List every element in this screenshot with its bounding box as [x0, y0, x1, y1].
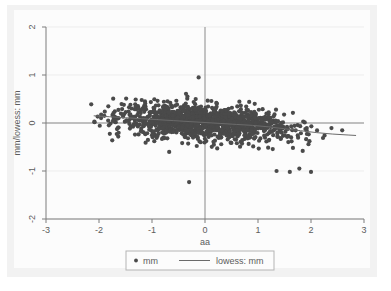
scatter-point: [207, 114, 211, 118]
scatter-point-outlier: [297, 167, 301, 171]
scatter-point: [212, 143, 216, 147]
scatter-point: [89, 102, 93, 106]
scatter-point: [106, 104, 110, 108]
x-tick-label: -3: [42, 225, 50, 235]
scatter-point: [247, 142, 251, 146]
scatter-point: [125, 119, 129, 123]
scatter-point: [204, 133, 208, 137]
scatter-point: [157, 126, 161, 130]
scatter-point: [154, 111, 158, 115]
scatter-point: [110, 138, 114, 142]
scatter-point: [144, 141, 148, 145]
scatter-point: [165, 99, 169, 103]
scatter-point: [120, 107, 124, 111]
scatter-point: [289, 124, 293, 128]
scatter-point: [301, 149, 305, 153]
scatter-point: [225, 124, 229, 128]
scatter-point: [257, 108, 261, 112]
scatter-point: [134, 97, 138, 101]
scatter-point: [131, 124, 135, 128]
scatter-point: [216, 117, 220, 121]
scatter-point: [252, 110, 256, 114]
scatter-point-outlier: [309, 170, 313, 174]
scatter-point: [253, 102, 257, 106]
scatter-point: [246, 136, 250, 140]
scatter-point: [124, 97, 128, 101]
scatter-point: [186, 113, 190, 117]
scatter-point: [111, 119, 115, 123]
scatter-point: [254, 121, 258, 125]
scatter-point: [133, 107, 137, 111]
scatter-point: [257, 146, 261, 150]
scatter-point: [261, 107, 265, 111]
scatter-point: [147, 114, 151, 118]
scatter-point: [307, 139, 311, 143]
scatter-point: [257, 139, 261, 143]
scatter-point: [303, 120, 307, 124]
scatter-point: [271, 133, 275, 137]
scatter-point: [116, 125, 120, 129]
scatter-point: [138, 123, 142, 127]
scatter-point: [185, 129, 189, 133]
x-tick-label: -2: [95, 225, 103, 235]
scatter-point: [289, 139, 293, 143]
scatter-point: [299, 131, 303, 135]
scatter-point: [298, 124, 302, 128]
scatter-point: [181, 133, 185, 137]
scatter-point: [149, 110, 153, 114]
scatter-point: [235, 141, 239, 145]
scatter-point: [127, 109, 131, 113]
scatter-point: [285, 134, 289, 138]
scatter-point: [193, 106, 197, 110]
scatter-point: [291, 111, 295, 115]
scatter-chart: -3-2-10123-2-1012aamm/lowess: mmmmlowess…: [0, 0, 391, 291]
y-axis-title: mm/lowess: mm: [12, 91, 22, 156]
scatter-point: [155, 136, 159, 140]
scatter-point: [191, 115, 195, 119]
x-tick-label: 0: [202, 225, 207, 235]
scatter-point: [271, 147, 275, 151]
scatter-point: [251, 144, 255, 148]
scatter-point: [98, 124, 102, 128]
scatter-point: [161, 105, 165, 109]
x-axis-title: aa: [200, 237, 210, 247]
scatter-point: [165, 130, 169, 134]
x-tick-label: 3: [361, 225, 366, 235]
scatter-point: [249, 128, 253, 132]
scatter-point: [92, 120, 96, 124]
y-tick-label: -1: [27, 167, 37, 175]
scatter-point: [103, 110, 107, 114]
scatter-point: [202, 140, 206, 144]
x-tick-label: 2: [308, 225, 313, 235]
scatter-point: [305, 132, 309, 136]
scatter-point: [219, 128, 223, 132]
scatter-point: [140, 130, 144, 134]
scatter-point: [136, 132, 140, 136]
scatter-point: [154, 103, 158, 107]
scatter-point: [139, 111, 143, 115]
scatter-point: [198, 114, 202, 118]
scatter-point: [158, 108, 162, 112]
scatter-point: [111, 97, 115, 101]
scatter-point: [262, 122, 266, 126]
scatter-point: [165, 136, 169, 140]
scatter-point: [143, 106, 147, 110]
scatter-point: [234, 138, 238, 142]
scatter-point: [185, 94, 189, 98]
scatter-point: [266, 115, 270, 119]
scatter-point: [136, 106, 140, 110]
scatter-point-outlier: [197, 75, 201, 79]
scatter-point-outlier: [274, 169, 278, 173]
scatter-point: [206, 99, 210, 103]
scatter-point: [167, 110, 171, 114]
scatter-point: [107, 123, 111, 127]
scatter-point: [203, 123, 207, 127]
scatter-point: [174, 99, 178, 103]
scatter-point: [321, 136, 325, 140]
scatter-point: [237, 100, 241, 104]
scatter-point: [180, 125, 184, 129]
scatter-point: [119, 111, 123, 115]
scatter-point: [116, 108, 120, 112]
scatter-point: [239, 103, 243, 107]
scatter-point: [267, 110, 271, 114]
